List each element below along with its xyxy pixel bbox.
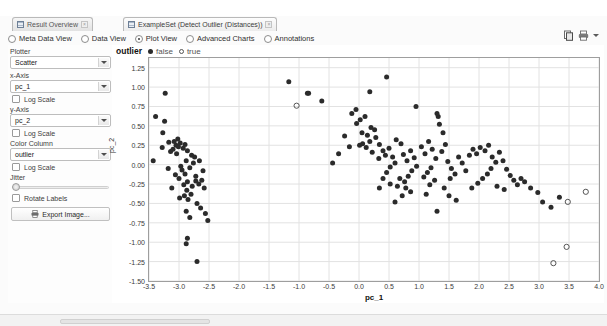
- data-point[interactable]: [480, 176, 485, 181]
- data-point[interactable]: [435, 111, 440, 116]
- data-point[interactable]: [528, 185, 533, 190]
- jitter-slider-track[interactable]: [12, 186, 109, 189]
- tab-exampleset[interactable]: ExampleSet (Detect Outlier (Distances)) …: [123, 17, 277, 31]
- view-option-plot-view[interactable]: Plot View: [135, 34, 177, 43]
- jitter-slider[interactable]: [12, 182, 109, 192]
- data-point[interactable]: [460, 161, 465, 166]
- data-point[interactable]: [173, 172, 178, 177]
- data-point[interactable]: [195, 201, 200, 206]
- data-point[interactable]: [549, 205, 554, 210]
- data-point[interactable]: [185, 236, 190, 241]
- data-point[interactable]: [471, 147, 476, 152]
- close-icon[interactable]: ×: [81, 21, 88, 28]
- data-point[interactable]: [388, 182, 393, 187]
- data-point[interactable]: [501, 158, 506, 163]
- data-point[interactable]: [474, 151, 479, 156]
- data-point[interactable]: [508, 173, 513, 178]
- data-point[interactable]: [187, 215, 192, 220]
- y-log-scale-checkbox-row[interactable]: Log Scale: [12, 129, 113, 137]
- data-point[interactable]: [441, 130, 446, 135]
- data-point[interactable]: [184, 209, 189, 214]
- data-point[interactable]: [442, 185, 447, 190]
- data-point[interactable]: [354, 121, 359, 126]
- data-point[interactable]: [408, 148, 413, 153]
- data-point[interactable]: [174, 151, 179, 156]
- data-point[interactable]: [363, 114, 368, 119]
- data-point[interactable]: [184, 241, 189, 246]
- data-point[interactable]: [177, 176, 182, 181]
- plot-area[interactable]: [148, 57, 600, 282]
- data-point[interactable]: [419, 144, 424, 149]
- data-point[interactable]: [414, 104, 419, 109]
- data-point[interactable]: [377, 142, 382, 147]
- data-point[interactable]: [360, 141, 365, 146]
- data-point[interactable]: [189, 192, 194, 197]
- data-point[interactable]: [381, 148, 386, 153]
- data-point[interactable]: [425, 170, 430, 175]
- data-point[interactable]: [443, 142, 448, 147]
- data-point[interactable]: [384, 170, 389, 175]
- data-point[interactable]: [414, 164, 419, 169]
- legend-item-true[interactable]: true: [179, 47, 201, 56]
- data-point[interactable]: [454, 198, 459, 203]
- data-point[interactable]: [383, 153, 388, 158]
- data-point[interactable]: [358, 117, 363, 122]
- data-point[interactable]: [478, 145, 483, 150]
- data-point[interactable]: [485, 171, 490, 176]
- data-point[interactable]: [490, 154, 495, 159]
- dropdown-caret-icon[interactable]: [593, 34, 599, 37]
- color-log-scale-checkbox-row[interactable]: Log Scale: [12, 163, 113, 171]
- view-option-meta-data-view[interactable]: Meta Data View: [8, 34, 72, 43]
- data-point[interactable]: [393, 161, 398, 166]
- data-point[interactable]: [193, 174, 198, 179]
- data-point[interactable]: [445, 159, 450, 164]
- data-point[interactable]: [367, 89, 372, 94]
- data-point[interactable]: [360, 130, 365, 135]
- data-point[interactable]: [169, 185, 174, 190]
- chevron-down-icon[interactable]: [98, 82, 109, 91]
- data-point[interactable]: [522, 179, 527, 184]
- data-point[interactable]: [400, 193, 405, 198]
- data-point[interactable]: [497, 150, 502, 155]
- data-point[interactable]: [583, 189, 588, 194]
- data-point[interactable]: [199, 178, 204, 183]
- data-point[interactable]: [370, 150, 375, 155]
- plotter-select[interactable]: Scatter: [10, 56, 111, 69]
- data-point[interactable]: [166, 140, 171, 145]
- data-point[interactable]: [394, 137, 399, 142]
- view-option-annotations[interactable]: Annotations: [264, 34, 315, 43]
- data-point[interactable]: [423, 151, 428, 156]
- data-point[interactable]: [191, 161, 196, 166]
- data-point[interactable]: [171, 147, 176, 152]
- data-point[interactable]: [177, 196, 182, 201]
- data-point[interactable]: [453, 171, 458, 176]
- print-icon[interactable]: [578, 30, 589, 41]
- chevron-down-icon[interactable]: [98, 58, 109, 67]
- checkbox-icon[interactable]: [12, 194, 20, 202]
- data-point[interactable]: [160, 145, 165, 150]
- data-point[interactable]: [330, 161, 335, 166]
- data-point[interactable]: [535, 190, 540, 195]
- radio-icon[interactable]: [264, 35, 272, 43]
- data-point[interactable]: [405, 158, 410, 163]
- data-point[interactable]: [564, 244, 569, 249]
- data-point[interactable]: [429, 165, 434, 170]
- data-point[interactable]: [376, 156, 381, 161]
- data-point[interactable]: [387, 146, 392, 151]
- data-point[interactable]: [489, 166, 494, 171]
- data-point[interactable]: [424, 192, 429, 197]
- data-point[interactable]: [162, 119, 167, 124]
- data-point[interactable]: [403, 185, 408, 190]
- data-point[interactable]: [449, 166, 454, 171]
- data-point[interactable]: [412, 155, 417, 160]
- data-point[interactable]: [433, 156, 438, 161]
- data-point[interactable]: [439, 149, 444, 154]
- data-point[interactable]: [367, 139, 372, 144]
- data-point[interactable]: [437, 122, 442, 127]
- data-point[interactable]: [511, 178, 516, 183]
- export-image-button[interactable]: Export Image...: [11, 207, 110, 221]
- data-point[interactable]: [181, 182, 186, 187]
- data-point[interactable]: [201, 168, 206, 173]
- y-axis-select[interactable]: pc_2: [10, 114, 111, 127]
- data-point[interactable]: [160, 130, 165, 135]
